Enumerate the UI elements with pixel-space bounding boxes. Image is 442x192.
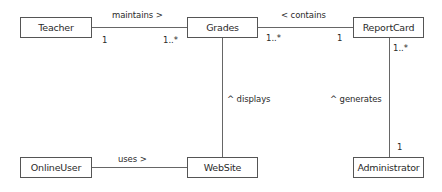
class-website[interactable]: WebSite xyxy=(187,157,258,178)
class-onlineuser[interactable]: OnlineUser xyxy=(20,157,92,178)
assoc-label-generates: ^ generates xyxy=(330,94,382,104)
mult-reportcard-side-from-admin: 1..* xyxy=(393,43,408,53)
class-reportcard[interactable]: ReportCard xyxy=(353,17,424,38)
assoc-label-uses: uses > xyxy=(118,154,147,164)
class-teacher[interactable]: Teacher xyxy=(20,17,92,38)
mult-grades-side-from-teacher: 1..* xyxy=(163,35,178,45)
class-name: WebSite xyxy=(204,162,242,173)
assoc-label-maintains: maintains > xyxy=(112,10,163,20)
class-name: Grades xyxy=(206,22,239,33)
assoc-line-grades-reportcard xyxy=(258,27,353,28)
mult-grades-side-from-reportcard: 1..* xyxy=(266,33,281,43)
uml-class-diagram: Teacher Grades ReportCard OnlineUser Web… xyxy=(0,0,442,192)
assoc-line-onlineuser-website xyxy=(92,167,187,168)
mult-reportcard-side-from-grades: 1 xyxy=(337,33,342,43)
class-name: Administrator xyxy=(357,162,419,173)
class-name: Teacher xyxy=(38,22,73,33)
assoc-label-contains: < contains xyxy=(281,10,326,20)
class-name: OnlineUser xyxy=(31,162,81,173)
assoc-line-reportcard-administrator xyxy=(389,38,390,157)
assoc-line-teacher-grades xyxy=(92,27,187,28)
assoc-line-grades-website xyxy=(222,38,223,157)
assoc-label-displays: ^ displays xyxy=(227,94,270,104)
class-name: ReportCard xyxy=(363,22,415,33)
class-administrator[interactable]: Administrator xyxy=(353,157,424,178)
class-grades[interactable]: Grades xyxy=(187,17,258,38)
mult-teacher-side: 1 xyxy=(102,35,107,45)
mult-administrator-side: 1 xyxy=(397,142,402,152)
